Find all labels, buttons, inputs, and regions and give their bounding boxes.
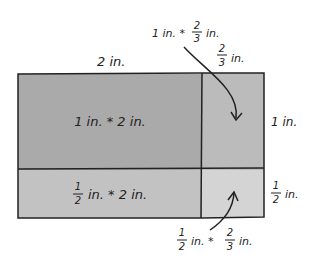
cell-bottom-left-rest: in. * 2 in. — [88, 187, 147, 202]
top-width-label: 2 in. — [97, 54, 125, 69]
height-top-label: 1 in. — [271, 115, 297, 129]
cell-bottom-left-num: 1 — [75, 181, 81, 192]
top-callout-den: 3 — [194, 33, 200, 44]
height-bottom-den: 2 — [273, 194, 279, 205]
bottom-callout-mid: in. * — [191, 235, 214, 248]
bottom-callout-den1: 2 — [179, 241, 185, 252]
bottom-callout-num1: 1 — [179, 227, 185, 238]
cell-top-left-label: 1 in. * 2 in. — [74, 114, 146, 129]
top-callout-num: 2 — [194, 20, 200, 31]
vertical-divider — [201, 73, 202, 218]
right-width-den: 3 — [219, 57, 225, 68]
top-callout-unit: in. — [206, 27, 220, 40]
right-width-num: 2 — [219, 43, 225, 54]
height-bottom-unit: in. — [285, 188, 299, 201]
bottom-callout-num2: 2 — [227, 227, 233, 238]
area-diagram: 2 in. 2 3 in. 1 in. * 2 3 in. 1 in. * 2 … — [0, 0, 314, 267]
bottom-callout-den2: 3 — [227, 241, 233, 252]
right-width-unit: in. — [231, 52, 245, 65]
cell-top-right — [202, 73, 264, 170]
top-callout-prefix: 1 in. * — [152, 27, 186, 40]
height-bottom-num: 1 — [273, 180, 279, 191]
bottom-callout-unit: in. — [239, 235, 253, 248]
horizontal-divider — [18, 168, 264, 169]
cell-bottom-left-den: 2 — [75, 195, 81, 206]
